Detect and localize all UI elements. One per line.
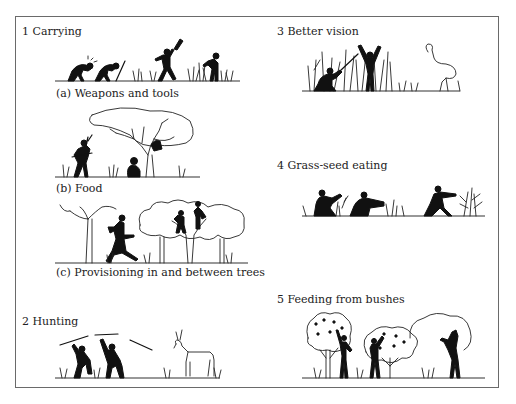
scene-weapons-and-tools <box>50 35 250 85</box>
panel-title-hunting: 2 Hunting <box>22 315 78 328</box>
subpanel-label-food: (b) Food <box>56 182 102 195</box>
scene-feeding-from-bushes <box>300 310 490 382</box>
panel-title-feeding-from-bushes: 5 Feeding from bushes <box>277 293 405 306</box>
scene-better-vision <box>300 40 470 95</box>
panel-title-better-vision: 3 Better vision <box>277 25 359 38</box>
scene-grass-seed-eating <box>300 178 490 220</box>
scene-food <box>50 105 250 185</box>
subpanel-label-weapons: (a) Weapons and tools <box>56 87 179 100</box>
panel-title-grass-seed-eating: 4 Grass-seed eating <box>277 159 387 172</box>
scene-hunting <box>50 330 230 385</box>
subpanel-label-provisioning: (c) Provisioning in and between trees <box>56 266 265 279</box>
scene-provisioning-trees <box>50 195 250 265</box>
